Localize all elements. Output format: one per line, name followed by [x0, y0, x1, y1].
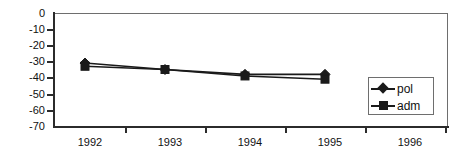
legend: pol adm — [368, 77, 434, 115]
data-point-adm — [321, 75, 329, 83]
data-point-adm — [161, 66, 169, 74]
legend-item-adm: adm — [369, 97, 435, 114]
diamond-marker-icon — [369, 81, 397, 97]
data-point-adm — [81, 62, 89, 70]
legend-label: pol — [397, 83, 413, 95]
legend-label: adm — [397, 100, 420, 112]
line-chart: 0 -10 -20 -30 -40 -50 -60 -70 1992 1993 … — [0, 0, 466, 157]
series-line-adm — [85, 66, 325, 79]
square-marker-icon — [369, 98, 397, 114]
legend-item-pol: pol — [369, 80, 435, 97]
data-point-adm — [241, 72, 249, 80]
